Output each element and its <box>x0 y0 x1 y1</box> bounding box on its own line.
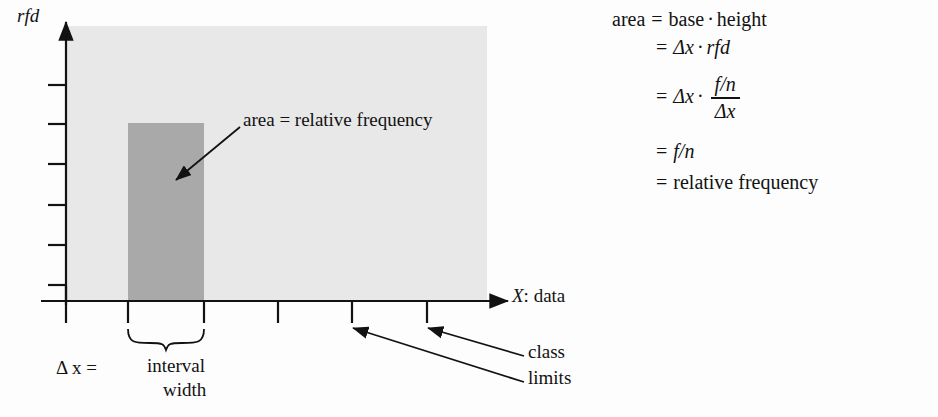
highlighted-bar <box>128 123 204 301</box>
x-axis-label-text: : data <box>524 285 566 306</box>
formula-equals-0: = <box>651 8 662 30</box>
formula-fraction: f/nΔx <box>711 73 740 123</box>
formula-delta-x-1: Δx <box>673 36 694 58</box>
class-limits-label-line1: class <box>528 342 565 363</box>
x-axis-label: X: data <box>512 286 565 307</box>
interval-width-brace <box>128 329 204 350</box>
y-axis-ticks <box>48 85 66 285</box>
histogram-diagram-svg <box>0 0 938 417</box>
area-callout-label: area = relative frequency <box>243 110 433 131</box>
x-axis-label-symbol: X <box>512 285 524 306</box>
formula-line-relative-frequency: =relative frequency <box>656 171 818 194</box>
interval-width-value-line1: interval <box>147 356 205 377</box>
formula-line-fraction: =Δx·f/nΔx <box>656 74 740 124</box>
class-limit-arrow-2 <box>428 328 524 356</box>
formula-dot-0: · <box>704 8 717 30</box>
formula-rfd: rfd <box>707 36 730 58</box>
formula-fn: f/n <box>673 140 694 162</box>
y-axis-label: rfd <box>17 6 39 27</box>
formula-line-fn: =f/n <box>656 140 694 163</box>
formula-equals-4: = <box>656 171 667 193</box>
formula-equals-2: = <box>656 85 667 107</box>
class-limits-label-line2: limits <box>528 368 571 389</box>
formula-dot-1: · <box>694 36 707 58</box>
formula-fraction-numerator: f/n <box>711 73 740 97</box>
formula-dot-2: · <box>694 85 707 107</box>
interval-width-value-line2: width <box>163 380 206 401</box>
formula-relative-frequency: relative frequency <box>673 171 818 193</box>
formula-line-dx-rfd: =Δx·rfd <box>656 36 730 59</box>
interval-width-label-text: Δ x = <box>56 357 97 378</box>
formula-delta-x-2: Δx <box>673 85 694 107</box>
figure-page: rfd X: data area = relative frequency Δ … <box>0 0 938 417</box>
formula-lhs-area: area <box>612 8 645 30</box>
formula-equals-1: = <box>656 36 667 58</box>
formula-fraction-denominator: Δx <box>711 99 740 123</box>
interval-width-label: Δ x = <box>56 358 97 379</box>
formula-height: height <box>717 8 767 30</box>
class-limit-arrow-1 <box>353 328 524 382</box>
formula-base: base <box>669 8 705 30</box>
formula-line-area: area=base·height <box>612 8 767 31</box>
formula-equals-3: = <box>656 140 667 162</box>
